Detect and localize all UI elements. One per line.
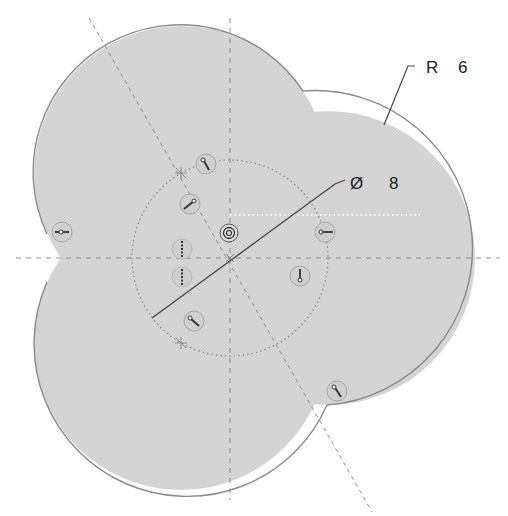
concentric-icon[interactable] [220,224,238,242]
radius-value[interactable]: 6 [458,58,467,77]
horizontal-constraint-icon[interactable] [52,222,72,242]
radius-dimension[interactable]: R 6 [384,58,467,125]
radius-leader [384,66,415,125]
diameter-symbol: Ø [350,174,363,193]
vertical-constraint-icon[interactable] [172,267,192,287]
coincident-icon[interactable] [180,194,200,214]
vertical-constraint-icon[interactable] [172,239,192,259]
vertical-point-icon[interactable] [290,266,310,286]
coincident-icon[interactable] [196,154,216,174]
horizontal-constraint-icon[interactable] [315,222,335,242]
diameter-value[interactable]: 8 [389,174,398,193]
sketch-canvas[interactable]: Ø 8 R 6 [0,0,508,516]
coincident-icon[interactable] [327,381,347,401]
coincident-icon[interactable] [184,311,204,331]
radius-symbol: R [426,58,438,77]
